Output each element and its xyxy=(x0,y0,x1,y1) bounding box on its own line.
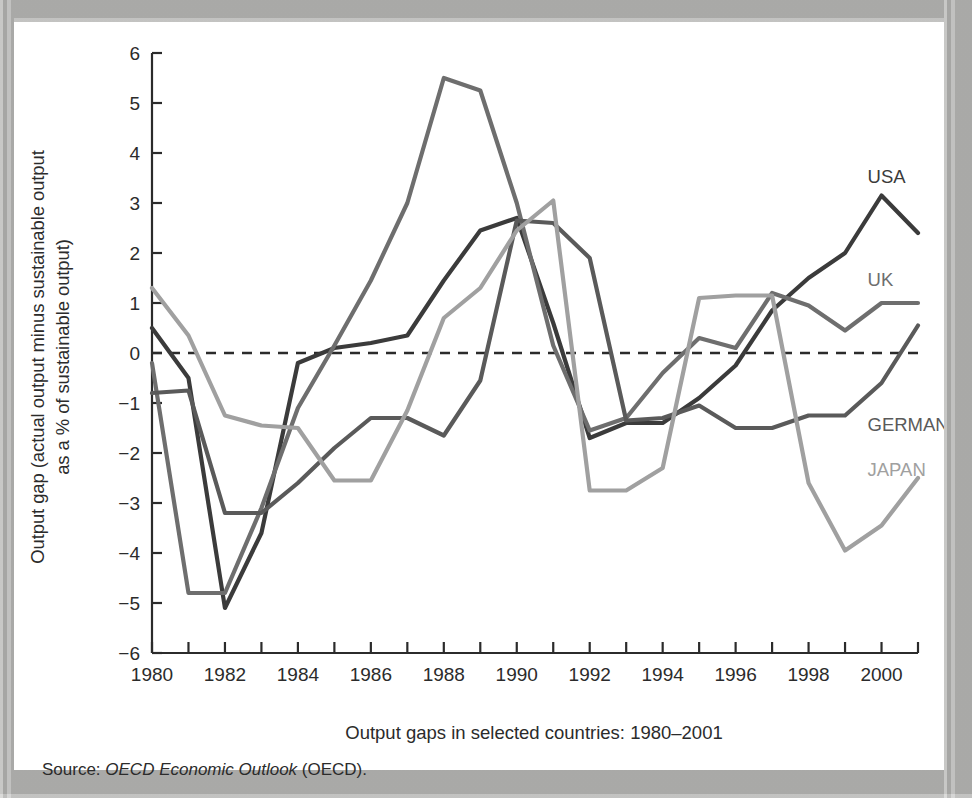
x-axis-tick-label: 1992 xyxy=(569,664,611,685)
y-axis-tick-label: −4 xyxy=(118,543,140,564)
y-axis-tick-label: −6 xyxy=(118,643,140,664)
figure-page: 6543210−1−2−3−4−5−6198019821984198619881… xyxy=(0,0,972,798)
x-axis-tick-label: 1990 xyxy=(496,664,538,685)
x-axis-tick-label: 1986 xyxy=(350,664,392,685)
figure-caption: Output gaps in selected countries: 1980–… xyxy=(164,722,904,744)
y-axis-title: Output gap (actual output minus sustaina… xyxy=(25,147,75,567)
output-gap-line-chart: 6543210−1−2−3−4−5−6198019821984198619881… xyxy=(14,22,944,722)
y-axis-title-line1: Output gap (actual output minus sustaina… xyxy=(25,147,50,567)
y-axis-tick-label: 2 xyxy=(129,243,140,264)
x-axis-tick-label: 2000 xyxy=(860,664,902,685)
x-axis-tick-label: 1982 xyxy=(204,664,246,685)
page-border-right xyxy=(944,0,972,798)
x-axis-tick-label: 1998 xyxy=(787,664,829,685)
page-border-left xyxy=(0,0,14,798)
figure-source: Source: OECD Economic Outlook (OECD). xyxy=(42,760,367,780)
figure-canvas: 6543210−1−2−3−4−5−6198019821984198619881… xyxy=(14,22,944,770)
series-label-uk: UK xyxy=(868,269,894,290)
series-label-usa: USA xyxy=(868,166,907,187)
y-axis-tick-label: 4 xyxy=(129,143,140,164)
x-axis-tick-label: 1980 xyxy=(131,664,173,685)
source-prefix: Source: xyxy=(42,760,105,779)
x-axis-tick-label: 1984 xyxy=(277,664,320,685)
y-axis-tick-label: 6 xyxy=(129,43,140,64)
y-axis-tick-label: −3 xyxy=(118,493,140,514)
page-border-top xyxy=(0,0,972,22)
x-axis-tick-label: 1994 xyxy=(642,664,685,685)
y-axis-tick-label: 0 xyxy=(129,343,140,364)
y-axis-tick-label: 1 xyxy=(129,293,140,314)
y-axis-tick-label: 5 xyxy=(129,93,140,114)
y-axis-tick-label: −1 xyxy=(118,393,140,414)
source-publication: OECD Economic Outlook xyxy=(105,760,297,779)
y-axis-title-line2: as a % of sustainable output) xyxy=(50,147,75,567)
series-label-germany: GERMANY xyxy=(868,414,944,435)
x-axis-tick-label: 1988 xyxy=(423,664,465,685)
y-axis-tick-label: −2 xyxy=(118,443,140,464)
series-line-usa xyxy=(152,196,918,609)
y-axis-tick-label: −5 xyxy=(118,593,140,614)
source-suffix: (OECD). xyxy=(297,760,367,779)
x-axis-tick-label: 1996 xyxy=(714,664,756,685)
y-axis-tick-label: 3 xyxy=(129,193,140,214)
series-label-japan: JAPAN xyxy=(868,459,926,480)
